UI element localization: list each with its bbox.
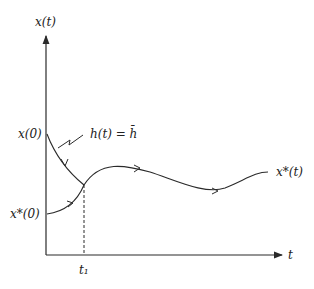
h-constant-trajectory [47,134,84,185]
t1-label: t₁ [79,264,89,276]
y-axis-label: x(t) [35,16,56,28]
arrow-icon [212,188,218,194]
zigzag-pointer [58,135,83,148]
trajectory-diagram [0,0,314,289]
xstar0-label: x*(0) [10,208,40,220]
x-axis-label: t [288,249,293,261]
xstar-t-label: x*(t) [276,166,303,178]
x0-label: x(0) [18,128,42,140]
h-equation-label: h(t) = h̄ [90,128,137,140]
optimal-initial-trajectory [47,185,84,214]
optimal-trajectory [84,166,268,190]
